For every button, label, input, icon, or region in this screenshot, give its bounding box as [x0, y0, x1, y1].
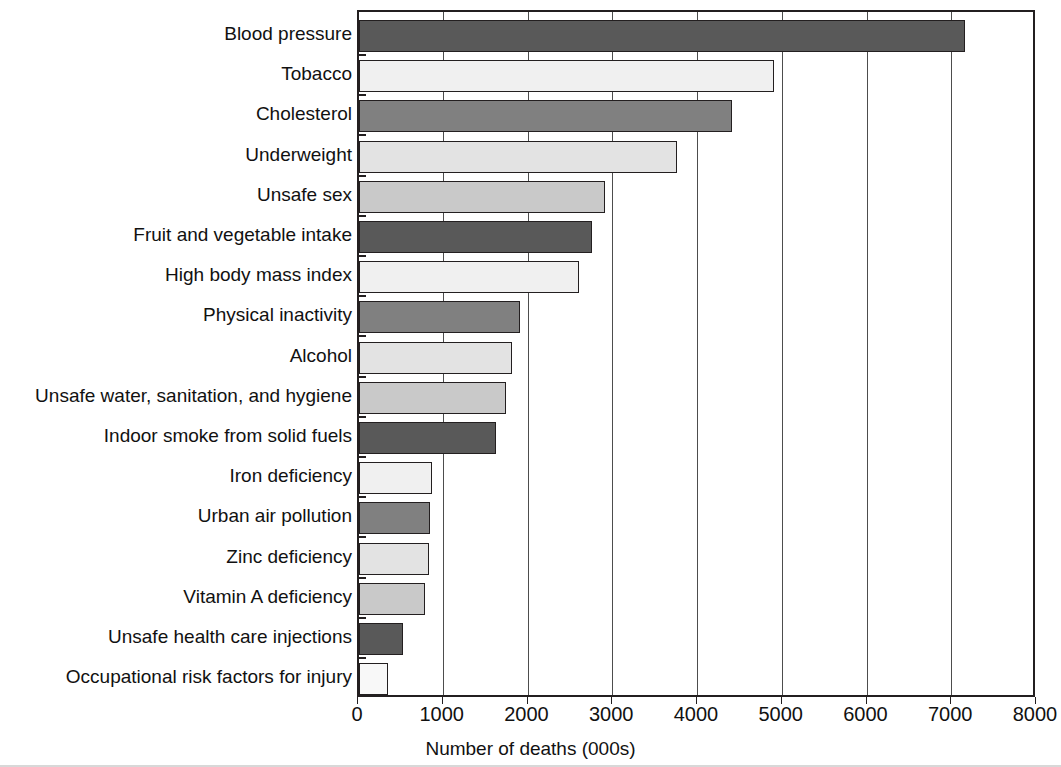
- gridline: [867, 12, 868, 695]
- bar: [359, 20, 965, 52]
- bar: [359, 221, 592, 253]
- y-axis-tick: [357, 496, 366, 498]
- category-label: Vitamin A deficiency: [183, 587, 352, 606]
- y-axis-tick: [357, 215, 366, 217]
- bar-chart: Blood pressureTobaccoCholesterolUnderwei…: [0, 0, 1061, 767]
- bar: [359, 261, 579, 293]
- category-label: Alcohol: [290, 346, 352, 365]
- bar: [359, 543, 429, 575]
- y-axis-tick: [357, 295, 366, 297]
- y-axis-tick: [357, 134, 366, 136]
- category-label: Underweight: [245, 145, 352, 164]
- bar: [359, 502, 430, 534]
- category-axis-labels: Blood pressureTobaccoCholesterolUnderwei…: [0, 0, 352, 697]
- category-label: Indoor smoke from solid fuels: [104, 426, 352, 445]
- category-label: Cholesterol: [256, 104, 352, 123]
- bar: [359, 623, 403, 655]
- y-axis-tick: [357, 536, 366, 538]
- bar: [359, 422, 496, 454]
- gridline: [951, 12, 952, 695]
- category-label: High body mass index: [165, 265, 352, 284]
- x-axis-title: Number of deaths (000s): [0, 738, 1061, 760]
- y-axis-tick: [357, 577, 366, 579]
- category-label: Iron deficiency: [229, 466, 352, 485]
- category-label: Tobacco: [281, 64, 352, 83]
- category-label: Physical inactivity: [203, 305, 352, 324]
- bar: [359, 663, 388, 695]
- category-label: Fruit and vegetable intake: [133, 225, 352, 244]
- gridline: [782, 12, 783, 695]
- category-label: Blood pressure: [224, 24, 352, 43]
- y-axis-tick: [357, 335, 366, 337]
- bar: [359, 382, 506, 414]
- y-axis-tick: [357, 175, 366, 177]
- bar: [359, 181, 605, 213]
- y-axis-tick: [357, 376, 366, 378]
- y-axis-tick: [357, 94, 366, 96]
- bar: [359, 342, 512, 374]
- bar: [359, 60, 774, 92]
- category-label: Urban air pollution: [198, 506, 352, 525]
- bar: [359, 462, 432, 494]
- y-axis-tick: [357, 657, 366, 659]
- bar: [359, 141, 677, 173]
- y-axis-tick: [357, 416, 366, 418]
- category-label: Unsafe sex: [257, 185, 352, 204]
- category-label: Occupational risk factors for injury: [66, 667, 352, 686]
- bar: [359, 301, 520, 333]
- y-axis-tick: [357, 617, 366, 619]
- plot-area: [357, 10, 1035, 697]
- plot-inner: [359, 12, 1033, 695]
- category-label: Zinc deficiency: [226, 547, 352, 566]
- y-axis-tick: [357, 456, 366, 458]
- bar: [359, 583, 425, 615]
- y-axis-tick: [357, 54, 366, 56]
- category-label: Unsafe health care injections: [108, 627, 352, 646]
- y-axis-tick: [357, 255, 366, 257]
- category-label: Unsafe water, sanitation, and hygiene: [35, 386, 352, 405]
- x-axis-tick-label: 8000: [980, 703, 1061, 725]
- bar: [359, 100, 732, 132]
